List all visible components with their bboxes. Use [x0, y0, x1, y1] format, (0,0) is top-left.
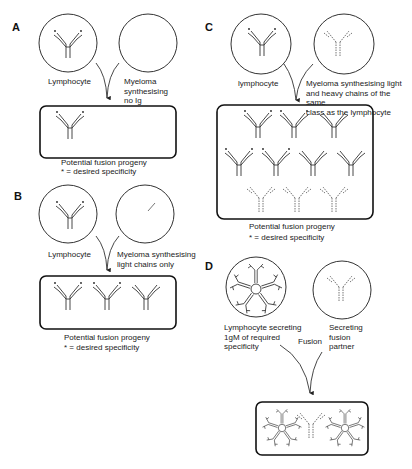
antibody-icon	[56, 201, 84, 229]
antibody-icon	[132, 285, 160, 310]
antibody-icon	[337, 151, 365, 176]
myeloma-cell	[314, 14, 374, 74]
fusion-arrow	[310, 352, 322, 393]
dashed-antibody-icon	[327, 276, 355, 301]
dashed-antibody-icon	[283, 187, 311, 212]
antibody-icon	[54, 282, 82, 310]
antibody-icon	[225, 148, 253, 176]
dashed-antibody-icon	[320, 187, 348, 212]
igm-pentamer-icon	[262, 409, 301, 446]
antibody-icon	[248, 28, 276, 56]
panel-label-b: B	[14, 190, 22, 202]
panel-label-a: A	[12, 21, 20, 33]
specificity-caption: * = desired specificity	[64, 343, 139, 353]
left-cell-label: Lymphocyte secreting 1gM of required spe…	[224, 323, 302, 352]
panel-label-d: D	[205, 260, 213, 272]
lymphocyte-cell	[226, 257, 286, 317]
right-cell-label: Myeloma synthesising light chains only	[117, 250, 196, 269]
myeloma-cell	[116, 185, 174, 243]
fusion-arrow	[107, 63, 119, 98]
antibody-icon	[54, 30, 82, 58]
panel-d	[226, 257, 371, 455]
right-cell-label: Secreting fusion partner	[329, 323, 363, 352]
antibody-icon	[299, 151, 327, 176]
igm-pentamer-icon	[325, 409, 364, 446]
lymphocyte-cell	[39, 14, 97, 72]
fusion-label: Fusion	[298, 337, 322, 347]
specificity-caption: * = desired specificity	[61, 167, 136, 177]
progeny-box	[40, 276, 176, 329]
left-cell-label: Lymphocyte	[48, 77, 91, 87]
specificity-caption: * = desired specificity	[249, 233, 324, 243]
light-chain-icon	[148, 203, 155, 211]
myeloma-cell	[119, 14, 177, 72]
fusion-arrow	[284, 64, 296, 100]
left-cell-label: Lymphocyte	[48, 250, 91, 260]
progeny-box	[256, 402, 368, 455]
antibody-icon	[244, 110, 272, 138]
antibody-icon	[56, 111, 84, 139]
antibody-icon	[93, 282, 121, 310]
lymphocyte-cell	[39, 185, 97, 243]
fusion-partner-cell	[313, 261, 371, 319]
right-cell-label: Myeloma synthesising no Ig	[124, 77, 168, 106]
igm-pentamer-icon	[230, 264, 282, 314]
dashed-antibody-icon	[297, 413, 325, 438]
fusion-arrow	[96, 236, 107, 270]
dashed-antibody-icon	[247, 187, 275, 212]
lymphocyte-cell	[231, 14, 291, 74]
fusion-arrow	[280, 345, 310, 393]
antibody-icon	[262, 148, 290, 176]
left-cell-label: lymphocyte	[238, 79, 278, 89]
antibody-icon	[280, 110, 308, 138]
progeny-caption: Potential fusion progeny	[64, 333, 150, 343]
progeny-box	[40, 106, 176, 158]
fusion-arrow	[96, 63, 107, 98]
progeny-caption: Potential fusion progeny	[249, 222, 335, 232]
panel-label-c: C	[205, 21, 213, 33]
right-cell-label: Myeloma synthesising light and heavy cha…	[306, 79, 412, 117]
dashed-antibody-icon	[324, 31, 352, 56]
